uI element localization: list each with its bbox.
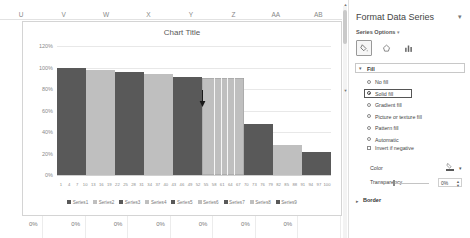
- legend-item[interactable]: Series9: [276, 200, 297, 205]
- sheet-cell[interactable]: 0%: [182, 218, 224, 230]
- radio-solid-fill[interactable]: [367, 91, 371, 95]
- format-data-series-pane: Format Data Series ▾ Series Options ▾: [348, 0, 470, 238]
- transparency-slider-track[interactable]: [393, 183, 429, 184]
- current-color-bar: [446, 169, 454, 171]
- bar-series8[interactable]: [273, 145, 302, 175]
- fill-and-line-icon[interactable]: [356, 40, 372, 56]
- radio-no-fill[interactable]: [367, 80, 371, 84]
- series-options-icon[interactable]: [400, 40, 416, 56]
- sheet-cell[interactable]: 0%: [267, 218, 309, 230]
- x-axis-tick-label: 67: [236, 182, 241, 187]
- invert-if-negative-label[interactable]: Invert if negative: [375, 145, 414, 151]
- chart-title[interactable]: Chart Title: [23, 28, 341, 37]
- chevron-down-icon[interactable]: ▾: [458, 13, 462, 21]
- sheet-cell[interactable]: 0%: [139, 218, 181, 230]
- legend-swatch: [276, 200, 280, 204]
- option-label-automatic[interactable]: Automatic: [375, 137, 399, 143]
- x-axis-tick-label: 79: [268, 182, 273, 187]
- legend-item[interactable]: Series8: [250, 200, 271, 205]
- bar-series9[interactable]: [302, 152, 331, 175]
- transparency-spinner[interactable]: 0% ▲▼: [438, 178, 462, 187]
- legend-label: Series4: [151, 200, 167, 205]
- x-axis-tick-label: 91: [300, 182, 305, 187]
- x-axis-tick-label: 4: [68, 182, 70, 187]
- x-axis-tick-label: 16: [99, 182, 104, 187]
- vertical-scrollbar-thumb[interactable]: [343, 10, 347, 44]
- x-axis-tick-label: 46: [180, 182, 185, 187]
- legend-item[interactable]: Series7: [224, 200, 245, 205]
- radio-pattern-fill[interactable]: [367, 126, 371, 130]
- invert-if-negative-checkbox[interactable]: [367, 146, 371, 150]
- x-axis-tick-label: 37: [155, 182, 160, 187]
- spinner-arrows-icon[interactable]: ▲▼: [456, 180, 460, 188]
- chevron-down-icon[interactable]: ▾: [397, 29, 400, 35]
- sheet-cell[interactable]: 0%: [97, 218, 139, 230]
- x-axis-tick-label: 28: [131, 182, 136, 187]
- scroll-up-arrow-icon[interactable]: ▲: [344, 2, 348, 7]
- transparency-value: 0%: [441, 180, 448, 186]
- y-axis-tick-label: 40%: [42, 129, 53, 135]
- header-separator: [0, 19, 342, 20]
- scroll-down-arrow-icon[interactable]: ▼: [344, 88, 348, 93]
- category-axis-labels[interactable]: 1471013161922252831343740434649525558616…: [57, 177, 331, 187]
- series-options-label[interactable]: Series Options: [356, 29, 395, 35]
- down-arrow-cursor-icon: [199, 90, 206, 108]
- legend-item[interactable]: Series2: [93, 200, 114, 205]
- bar-series7[interactable]: [244, 124, 273, 175]
- x-axis-tick-label: 58: [212, 182, 217, 187]
- sheet-cell[interactable]: 0%: [54, 218, 96, 230]
- x-axis-tick-label: 25: [123, 182, 128, 187]
- fill-section-header[interactable]: ▾ Fill: [355, 63, 465, 73]
- excel-chart-format-screen: UVWXYZAAAB 0%0%0%0%0%0%0% Chart Title 12…: [0, 0, 470, 238]
- radio-picture-or-texture-fill[interactable]: [367, 114, 371, 118]
- chart-object[interactable]: Chart Title 120%100%80%60%40%20%0% 14710…: [22, 21, 342, 216]
- legend-label: Series2: [99, 200, 115, 205]
- effects-icon[interactable]: [378, 40, 394, 56]
- percent-value-row: 0%0%0%0%0%0%0%: [0, 218, 348, 230]
- chart-legend[interactable]: Series1Series2Series3Series4Series5Serie…: [23, 197, 341, 207]
- bar-series1[interactable]: [57, 68, 86, 176]
- bar-series6[interactable]: [202, 78, 244, 175]
- bar-series5[interactable]: [173, 77, 202, 175]
- selection-gridline: [221, 78, 222, 175]
- transparency-slider-knob[interactable]: [393, 180, 395, 186]
- bar-series2[interactable]: [86, 70, 115, 175]
- legend-label: Series3: [125, 200, 141, 205]
- pane-tab-icons[interactable]: [356, 40, 416, 56]
- plot-area[interactable]: 120%100%80%60%40%20%0%: [57, 46, 331, 175]
- sheet-cell[interactable]: 0%: [224, 218, 266, 230]
- color-picker-button[interactable]: [445, 163, 454, 171]
- legend-swatch: [171, 200, 175, 204]
- legend-item[interactable]: Series4: [145, 200, 166, 205]
- chevron-down-icon: ▾: [359, 65, 362, 71]
- x-axis-tick-label: 43: [172, 182, 177, 187]
- legend-item[interactable]: Series1: [67, 200, 88, 205]
- option-label-pattern-fill[interactable]: Pattern fill: [375, 125, 399, 131]
- option-label-picture-or-texture-fill[interactable]: Picture or texture fill: [375, 114, 422, 120]
- bar-series3[interactable]: [115, 72, 144, 175]
- option-label-no-fill[interactable]: No fill: [375, 79, 388, 85]
- bar-series4[interactable]: [144, 74, 173, 175]
- legend-swatch: [198, 200, 202, 204]
- x-axis-tick-label: 34: [147, 182, 152, 187]
- selection-gridline: [227, 78, 228, 175]
- legend-swatch: [93, 200, 97, 204]
- legend-swatch: [145, 200, 149, 204]
- legend-swatch: [119, 200, 123, 204]
- legend-item[interactable]: Series6: [198, 200, 219, 205]
- sheet-cell[interactable]: 0%: [12, 218, 54, 230]
- border-section-label[interactable]: Border: [363, 197, 381, 203]
- chevron-right-icon[interactable]: ▸: [356, 198, 359, 204]
- option-label-gradient-fill[interactable]: Gradient fill: [375, 102, 402, 108]
- radio-automatic[interactable]: [367, 137, 371, 141]
- option-label-solid-fill[interactable]: Solid fill: [375, 91, 393, 97]
- bar-series-group[interactable]: [57, 46, 331, 175]
- radio-gradient-fill[interactable]: [367, 103, 371, 107]
- y-axis-tick-label: 80%: [42, 86, 53, 92]
- legend-item[interactable]: Series3: [119, 200, 140, 205]
- x-axis-tick-label: 82: [276, 182, 281, 187]
- legend-label: Series1: [73, 200, 89, 205]
- y-axis-tick-label: 0%: [45, 172, 53, 178]
- legend-item[interactable]: Series5: [171, 200, 192, 205]
- chevron-down-icon[interactable]: ▾: [459, 165, 462, 171]
